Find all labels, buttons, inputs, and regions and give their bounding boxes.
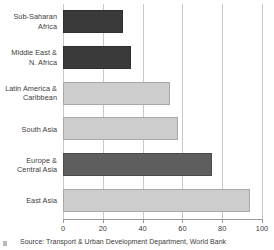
bar[interactable] bbox=[63, 189, 250, 212]
category-label: Middle East &N. Africa bbox=[0, 40, 57, 76]
x-axis-line bbox=[63, 219, 263, 220]
x-tick-label-40: 40 bbox=[128, 224, 158, 233]
category-label-line: Middle East & bbox=[11, 48, 57, 57]
bar[interactable] bbox=[63, 117, 178, 140]
category-label-line: Europe & bbox=[26, 156, 57, 165]
bar[interactable] bbox=[63, 10, 123, 33]
bar[interactable] bbox=[63, 153, 212, 176]
category-label-line: East Asia bbox=[26, 196, 57, 205]
category-label: Europe &Central Asia bbox=[0, 147, 57, 183]
tickmark-80 bbox=[222, 219, 223, 223]
bar-row: Middle East &N. Africa bbox=[0, 40, 274, 76]
category-label-line: N. Africa bbox=[29, 58, 57, 67]
x-tick-label-0: 0 bbox=[48, 224, 78, 233]
category-label-line: South Asia bbox=[22, 125, 57, 134]
tickmark-0 bbox=[63, 219, 64, 223]
category-label: South Asia bbox=[0, 111, 57, 147]
category-label: Latin America &Caribbean bbox=[0, 76, 57, 112]
bar[interactable] bbox=[63, 82, 170, 105]
bar-chart-figure: Sub-SaharanAfricaMiddle East &N. AfricaL… bbox=[0, 0, 274, 250]
corner-mark bbox=[3, 241, 7, 246]
bar-row: Sub-SaharanAfrica bbox=[0, 4, 274, 40]
category-label: Sub-SaharanAfrica bbox=[0, 4, 57, 40]
tickmark-20 bbox=[103, 219, 104, 223]
bar-row: South Asia bbox=[0, 111, 274, 147]
tickmark-100 bbox=[262, 219, 263, 223]
bar-row: Europe &Central Asia bbox=[0, 147, 274, 183]
category-label-line: Central Asia bbox=[17, 165, 57, 174]
category-label-line: Latin America & bbox=[5, 84, 57, 93]
category-label-line: Africa bbox=[38, 22, 57, 31]
x-tick-label-80: 80 bbox=[207, 224, 237, 233]
category-label: East Asia bbox=[0, 183, 57, 219]
x-tick-label-100: 100 bbox=[247, 224, 274, 233]
category-label-line: Sub-Saharan bbox=[13, 12, 57, 21]
bar-row: East Asia bbox=[0, 183, 274, 219]
tickmark-60 bbox=[182, 219, 183, 223]
category-label-line: Caribbean bbox=[23, 93, 57, 102]
bar[interactable] bbox=[63, 46, 131, 69]
source-note: Source: Transport & Urban Development De… bbox=[20, 238, 226, 245]
bar-row: Latin America &Caribbean bbox=[0, 76, 274, 112]
x-tick-label-20: 20 bbox=[88, 224, 118, 233]
tickmark-40 bbox=[143, 219, 144, 223]
x-tick-label-60: 60 bbox=[167, 224, 197, 233]
